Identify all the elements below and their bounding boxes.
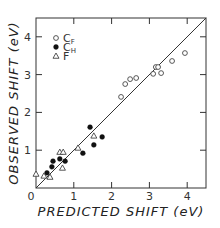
scatter-chart: 123412340 CFCHF PREDICTED SHIFT (eV) OBS… <box>0 0 220 228</box>
y-tick-label: 3 <box>24 69 31 82</box>
data-point <box>59 165 65 170</box>
data-point <box>159 71 164 76</box>
data-point <box>33 171 39 176</box>
origin-label: 0 <box>28 190 35 203</box>
legend-marker-ch <box>54 45 59 50</box>
data-point <box>151 71 156 76</box>
reference-line-y-equals-x <box>36 18 206 188</box>
data-point <box>170 59 175 64</box>
data-point <box>156 65 161 70</box>
data-point <box>88 125 93 130</box>
legend-label-f: F <box>63 50 69 63</box>
series-f <box>33 133 97 179</box>
data-point <box>63 159 68 164</box>
x-axis-title: PREDICTED SHIFT (eV) <box>38 204 205 219</box>
legend-marker-cf <box>54 36 59 41</box>
data-point <box>183 51 188 56</box>
data-point <box>91 143 96 148</box>
legend-marker-f <box>53 53 59 58</box>
data-point <box>49 164 54 169</box>
diagonal-line <box>36 18 206 188</box>
data-point <box>57 156 62 161</box>
data-point <box>51 159 56 164</box>
data-point <box>91 133 97 138</box>
data-point <box>80 151 85 156</box>
x-tick-label: 1 <box>70 190 77 203</box>
data-point <box>128 77 133 82</box>
data-point <box>100 135 105 140</box>
data-point <box>119 95 124 100</box>
legend: CFCHF <box>53 32 76 63</box>
series-cf <box>119 51 188 100</box>
x-tick-label: 4 <box>184 190 191 203</box>
data-point <box>123 82 128 87</box>
data-points <box>33 51 187 180</box>
x-tick-label: 3 <box>146 190 153 203</box>
y-axis-title: OBSERVED SHIFT (eV) <box>6 21 21 184</box>
x-tick-label: 2 <box>108 190 115 203</box>
y-tick-label: 4 <box>24 31 31 44</box>
data-point <box>134 76 139 81</box>
y-tick-label: 1 <box>24 144 31 157</box>
y-tick-label: 2 <box>24 106 31 119</box>
